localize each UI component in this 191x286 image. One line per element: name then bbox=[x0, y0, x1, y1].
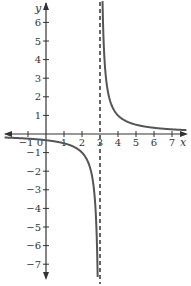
x-tick-label: 4 bbox=[115, 137, 121, 148]
x-axis-left-arrow-icon bbox=[4, 131, 12, 137]
y-tick-label: −2 bbox=[26, 166, 41, 177]
y-tick-label: 3 bbox=[35, 73, 41, 84]
y-tick-label: 4 bbox=[35, 54, 41, 65]
y-tick-label: 5 bbox=[35, 36, 41, 47]
x-tick-label: 7 bbox=[169, 137, 175, 148]
y-tick-label: −4 bbox=[26, 203, 41, 214]
y-tick-label: 2 bbox=[35, 91, 41, 102]
y-tick-label: −6 bbox=[26, 240, 41, 251]
x-axis-label: x bbox=[180, 136, 187, 149]
y-tick-label: 1 bbox=[35, 110, 41, 121]
y-axis-down-arrow-icon bbox=[43, 272, 49, 280]
y-tick-label: −7 bbox=[26, 259, 41, 270]
y-tick-label: −5 bbox=[26, 222, 41, 233]
y-axis-label: y bbox=[34, 2, 42, 15]
x-tick-label: 2 bbox=[79, 137, 85, 148]
x-tick-label: 6 bbox=[151, 137, 157, 148]
function-graph: −101234567654321−1−2−3−4−5−6−7 y x bbox=[0, 0, 191, 286]
y-tick-label: −1 bbox=[26, 147, 41, 158]
y-tick-label: 6 bbox=[35, 17, 41, 28]
y-axis-up-arrow-icon bbox=[43, 2, 49, 10]
curve-right-branch bbox=[103, 1, 187, 130]
x-tick-label: 5 bbox=[133, 137, 139, 148]
y-tick-label: −3 bbox=[26, 184, 41, 195]
curve-left-branch bbox=[5, 138, 98, 278]
